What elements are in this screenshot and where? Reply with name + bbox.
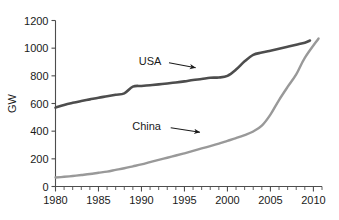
y-axis-tick-label: 1000 (24, 42, 48, 54)
x-axis-tick-label: 2010 (301, 194, 325, 206)
x-axis-tick-label: 1980 (43, 194, 67, 206)
series-annotation-arrow-usa (169, 63, 196, 68)
y-axis-tick-label: 400 (30, 125, 48, 137)
line-chart: 020040060080010001200GW19801985199019952… (0, 0, 339, 220)
series-annotation-label-usa: USA (139, 55, 162, 67)
y-axis-tick-label: 1200 (24, 15, 48, 27)
x-axis-tick-label: 1995 (172, 194, 196, 206)
x-axis-tick-label: 2005 (258, 194, 282, 206)
series-annotation-label-china: China (132, 120, 162, 132)
series-line-china (56, 38, 319, 177)
x-axis-tick-label: 1985 (86, 194, 110, 206)
chart-axes (56, 21, 323, 187)
y-axis-tick-label: 0 (42, 181, 48, 193)
y-axis-tick-label: 600 (30, 98, 48, 110)
y-axis-tick-label: 800 (30, 70, 48, 82)
chart-canvas: 020040060080010001200GW19801985199019952… (0, 0, 339, 220)
y-axis-tick-label: 200 (30, 153, 48, 165)
series-line-usa (56, 41, 310, 108)
x-axis-tick-label: 1990 (129, 194, 153, 206)
x-axis-tick-label: 2000 (215, 194, 239, 206)
y-axis-title: GW (6, 93, 18, 113)
series-annotation-arrow-china (171, 128, 200, 133)
